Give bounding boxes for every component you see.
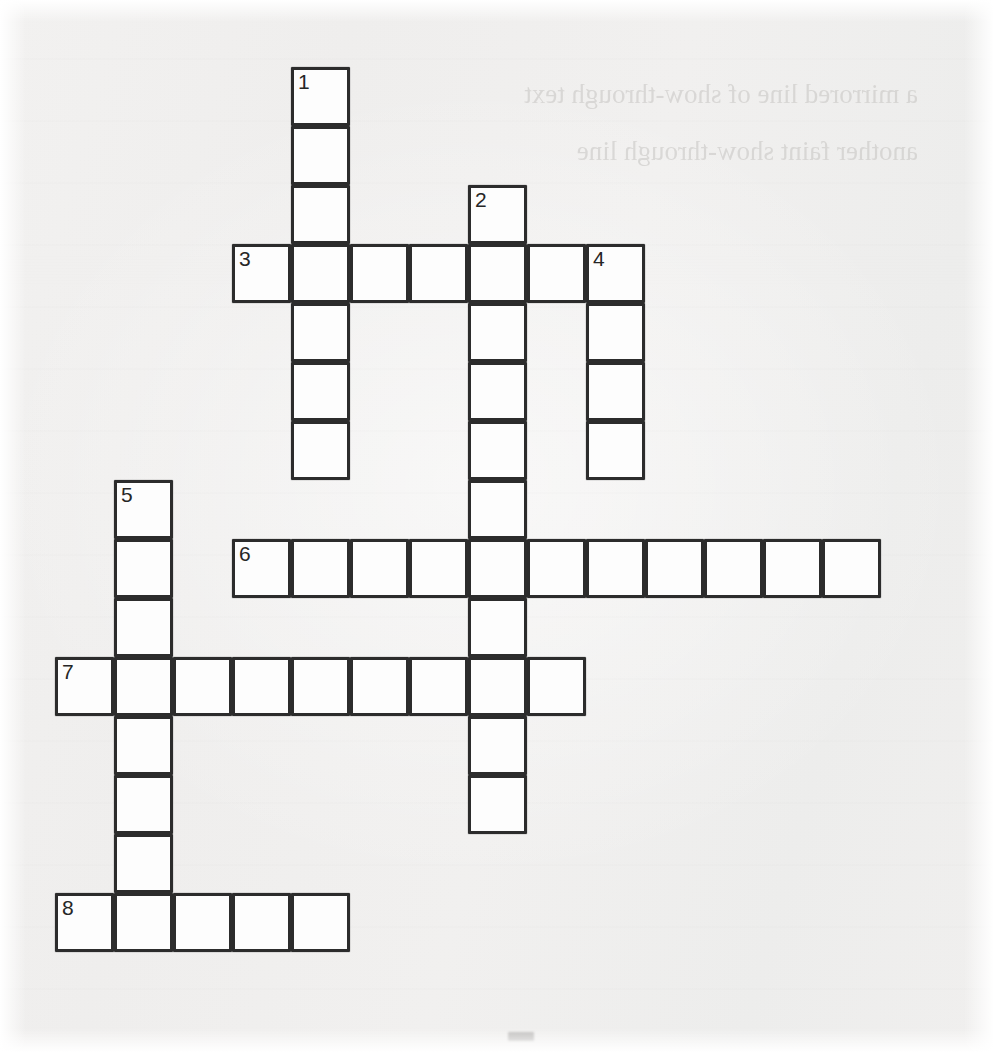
cell-letter[interactable]: [471, 660, 524, 713]
cell-letter[interactable]: [117, 896, 170, 949]
crossword-cell[interactable]: [586, 362, 645, 421]
cell-letter[interactable]: [471, 424, 524, 477]
cell-letter[interactable]: [530, 247, 583, 300]
cell-letter[interactable]: [353, 542, 406, 595]
cell-letter[interactable]: [648, 542, 701, 595]
cell-letter[interactable]: [471, 719, 524, 772]
cell-letter[interactable]: [353, 247, 406, 300]
crossword-cell[interactable]: [291, 539, 350, 598]
cell-letter[interactable]: [117, 719, 170, 772]
crossword-cell[interactable]: [409, 244, 468, 303]
crossword-cell[interactable]: [350, 539, 409, 598]
crossword-cell[interactable]: 8: [55, 893, 114, 952]
crossword-cell[interactable]: [114, 775, 173, 834]
cell-letter[interactable]: [353, 660, 406, 713]
cell-letter[interactable]: [58, 896, 111, 949]
crossword-cell[interactable]: [468, 421, 527, 480]
cell-letter[interactable]: [589, 542, 642, 595]
crossword-cell[interactable]: [173, 893, 232, 952]
crossword-cell[interactable]: [468, 480, 527, 539]
crossword-grid[interactable]: 12345678: [0, 0, 994, 1052]
crossword-cell[interactable]: [291, 421, 350, 480]
crossword-cell[interactable]: [586, 303, 645, 362]
crossword-cell[interactable]: [468, 657, 527, 716]
cell-letter[interactable]: [294, 306, 347, 359]
cell-letter[interactable]: [589, 365, 642, 418]
cell-letter[interactable]: [412, 542, 465, 595]
crossword-cell[interactable]: [114, 598, 173, 657]
cell-letter[interactable]: [294, 896, 347, 949]
cell-letter[interactable]: [294, 365, 347, 418]
cell-letter[interactable]: [589, 306, 642, 359]
crossword-cell[interactable]: [527, 244, 586, 303]
crossword-cell[interactable]: [468, 598, 527, 657]
crossword-cell[interactable]: 1: [291, 67, 350, 126]
crossword-cell[interactable]: [291, 126, 350, 185]
crossword-cell[interactable]: [291, 244, 350, 303]
cell-letter[interactable]: [412, 247, 465, 300]
cell-letter[interactable]: [176, 896, 229, 949]
crossword-cell[interactable]: [586, 421, 645, 480]
cell-letter[interactable]: [471, 306, 524, 359]
crossword-cell[interactable]: [763, 539, 822, 598]
cell-letter[interactable]: [589, 424, 642, 477]
crossword-cell[interactable]: [468, 539, 527, 598]
crossword-cell[interactable]: [291, 893, 350, 952]
cell-letter[interactable]: [117, 601, 170, 654]
cell-letter[interactable]: [530, 542, 583, 595]
cell-letter[interactable]: [117, 542, 170, 595]
cell-letter[interactable]: [294, 247, 347, 300]
crossword-cell[interactable]: 6: [232, 539, 291, 598]
cell-letter[interactable]: [530, 660, 583, 713]
crossword-cell[interactable]: 5: [114, 480, 173, 539]
cell-letter[interactable]: [117, 837, 170, 890]
crossword-cell[interactable]: [173, 657, 232, 716]
crossword-cell[interactable]: [409, 539, 468, 598]
cell-letter[interactable]: [294, 70, 347, 123]
crossword-cell[interactable]: [291, 362, 350, 421]
crossword-cell[interactable]: [468, 362, 527, 421]
crossword-cell[interactable]: [468, 244, 527, 303]
cell-letter[interactable]: [117, 660, 170, 713]
cell-letter[interactable]: [471, 247, 524, 300]
cell-letter[interactable]: [294, 129, 347, 182]
cell-letter[interactable]: [235, 247, 288, 300]
crossword-cell[interactable]: [704, 539, 763, 598]
crossword-cell[interactable]: [645, 539, 704, 598]
crossword-cell[interactable]: [291, 303, 350, 362]
crossword-cell[interactable]: 2: [468, 185, 527, 244]
cell-letter[interactable]: [294, 424, 347, 477]
crossword-cell[interactable]: [232, 657, 291, 716]
crossword-cell[interactable]: [468, 775, 527, 834]
cell-letter[interactable]: [294, 188, 347, 241]
cell-letter[interactable]: [589, 247, 642, 300]
cell-letter[interactable]: [471, 188, 524, 241]
cell-letter[interactable]: [471, 542, 524, 595]
crossword-cell[interactable]: 3: [232, 244, 291, 303]
cell-letter[interactable]: [766, 542, 819, 595]
crossword-cell[interactable]: [114, 834, 173, 893]
cell-letter[interactable]: [471, 483, 524, 536]
crossword-cell[interactable]: [114, 893, 173, 952]
crossword-cell[interactable]: [291, 657, 350, 716]
crossword-cell[interactable]: [468, 716, 527, 775]
crossword-cell[interactable]: [114, 539, 173, 598]
cell-letter[interactable]: [235, 660, 288, 713]
cell-letter[interactable]: [58, 660, 111, 713]
crossword-cell[interactable]: [822, 539, 881, 598]
crossword-cell[interactable]: [114, 716, 173, 775]
crossword-cell[interactable]: [527, 539, 586, 598]
cell-letter[interactable]: [471, 601, 524, 654]
cell-letter[interactable]: [176, 660, 229, 713]
cell-letter[interactable]: [707, 542, 760, 595]
crossword-cell[interactable]: [527, 657, 586, 716]
crossword-cell[interactable]: 4: [586, 244, 645, 303]
cell-letter[interactable]: [471, 365, 524, 418]
cell-letter[interactable]: [471, 778, 524, 831]
crossword-cell[interactable]: [350, 244, 409, 303]
crossword-cell[interactable]: [409, 657, 468, 716]
cell-letter[interactable]: [117, 778, 170, 831]
cell-letter[interactable]: [294, 660, 347, 713]
cell-letter[interactable]: [412, 660, 465, 713]
cell-letter[interactable]: [235, 896, 288, 949]
